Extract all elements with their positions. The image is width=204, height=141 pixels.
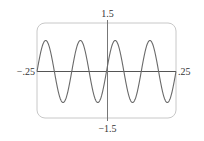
x-min-label: −.25 xyxy=(17,66,35,77)
sine-wave-chart: 1.5 −1.5 −.25 .25 xyxy=(0,0,204,141)
x-max-label: .25 xyxy=(178,66,191,77)
y-min-label: −1.5 xyxy=(98,123,116,134)
y-max-label: 1.5 xyxy=(101,8,114,19)
